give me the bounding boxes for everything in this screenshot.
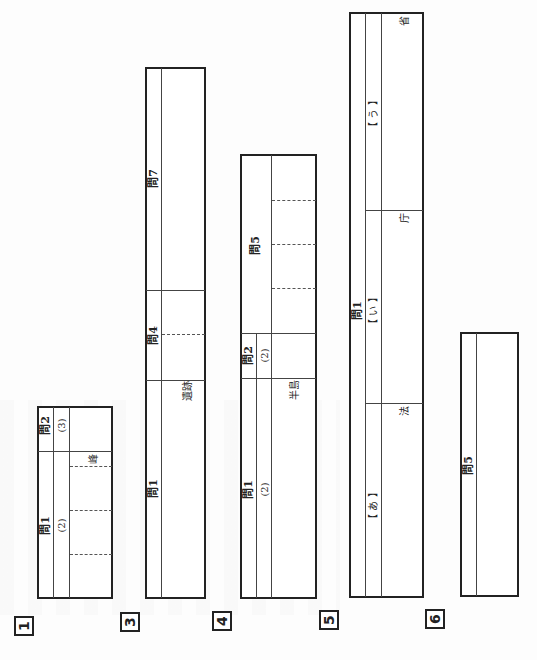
answer-field[interactable] [272,379,316,598]
blank-label-a: 【 あ 】 [368,486,379,526]
sub-label: (2) [259,344,270,368]
answer-field[interactable] [162,291,205,379]
question-label: 問7 [148,167,159,191]
sub-label: (2) [56,514,67,538]
question-label: 問5 [250,234,261,258]
section-number-3: 3 [120,612,140,632]
question-label: 問1 [352,299,363,323]
answer-field[interactable] [70,452,112,598]
sub-label: (2) [259,478,270,502]
answer-field[interactable] [272,334,316,377]
section-number-6: 6 [425,609,445,629]
divider [365,13,366,597]
answer-field[interactable] [382,404,423,597]
answer-field[interactable] [477,333,518,596]
question-label: 問1 [243,478,254,502]
section-number-1: 1 [14,616,34,636]
answer-field[interactable] [382,211,423,402]
answer-field[interactable] [382,13,423,209]
question-label: 問1 [148,477,159,501]
blank-label-u: 【 う 】 [368,94,379,134]
blank-label-i: 【 い 】 [368,291,379,331]
answer-field[interactable] [272,155,316,332]
sub-label: (3) [56,414,67,438]
answer-field[interactable] [70,407,112,451]
question-label: 問1 [40,514,51,538]
question-label: 問2 [40,414,51,438]
answer-field[interactable] [162,381,205,598]
question-label: 問5 [463,454,474,478]
answer-field[interactable] [162,68,205,289]
divider [53,407,54,598]
section-number-5: 5 [319,610,339,630]
section-number-4: 4 [212,611,232,631]
question-label: 問4 [148,324,159,348]
divider [256,333,257,598]
question-label: 問2 [243,344,254,368]
